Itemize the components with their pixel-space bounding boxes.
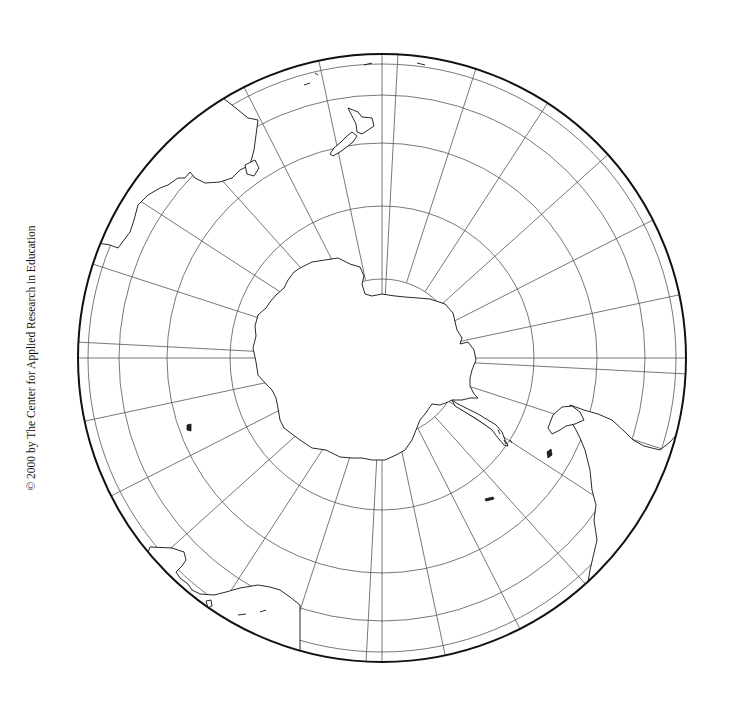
australia <box>60 92 258 260</box>
south-georgia <box>485 497 494 501</box>
new-zealand-south-island <box>330 132 357 156</box>
kerguelen-islands <box>187 424 191 431</box>
antarctica <box>253 258 478 460</box>
pacific-islands <box>304 63 425 85</box>
south-america <box>560 400 735 702</box>
antarctic-peninsula <box>452 400 508 446</box>
meridian-line <box>435 417 586 584</box>
meridian-line <box>441 155 608 306</box>
meridian-line <box>425 103 548 292</box>
meridian-line <box>406 69 476 283</box>
southern-africa <box>120 547 300 702</box>
new-zealand-north-island <box>348 108 374 134</box>
falkland-islands <box>547 449 552 458</box>
meridian-line <box>216 424 339 613</box>
southern-hemisphere-map <box>0 0 735 702</box>
copyright-notice: © 2000 by The Center for Applied Researc… <box>25 226 37 491</box>
